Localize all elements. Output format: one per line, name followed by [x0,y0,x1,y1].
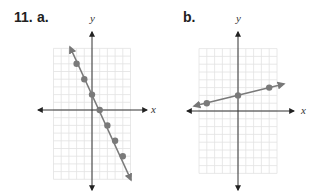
data-point [81,76,87,82]
data-point [73,61,79,67]
data-point [266,84,272,90]
data-point [235,92,241,98]
graphs-canvas [0,0,321,194]
graph-a [38,32,147,190]
data-point [112,138,118,144]
data-point [97,107,103,113]
data-point [120,153,126,159]
graph-a-line [70,47,131,180]
data-point [204,100,210,106]
data-point [89,91,95,97]
graph-b [187,32,294,190]
data-point [104,122,110,128]
